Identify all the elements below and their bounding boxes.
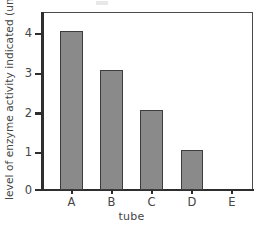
x-tick-mark-C (151, 189, 153, 194)
y-tick-mark-4 (35, 33, 42, 35)
x-tick-label-A: A (60, 195, 84, 209)
y-tick-mark-0 (35, 189, 42, 191)
x-axis-title: tube (0, 210, 263, 223)
x-tick-label-C: C (140, 195, 164, 209)
scan-artifact (96, 1, 108, 5)
bar-A (60, 31, 83, 190)
y-tick-label-1: 1 (12, 145, 32, 159)
x-tick-mark-A (71, 189, 73, 194)
bar-D (181, 150, 203, 190)
y-tick-mark-3 (35, 73, 42, 75)
x-tick-label-E: E (220, 195, 244, 209)
y-tick-mark-1 (35, 152, 42, 154)
y-tick-label-2: 2 (12, 106, 32, 120)
bar-B (100, 70, 123, 189)
y-tick-mark-2 (35, 112, 42, 114)
bar-C (140, 110, 163, 190)
bar-chart: level of enzyme activity indicated (unit… (0, 0, 263, 230)
y-tick-label-4: 4 (12, 26, 32, 40)
y-axis-line (41, 12, 43, 190)
x-tick-mark-B (111, 189, 113, 194)
x-tick-label-B: B (100, 195, 124, 209)
y-tick-label-0: 0 (12, 183, 32, 197)
y-tick-label-3: 3 (12, 66, 32, 80)
x-tick-label-D: D (180, 195, 204, 209)
x-tick-mark-E (231, 189, 233, 194)
x-tick-mark-D (191, 189, 193, 194)
